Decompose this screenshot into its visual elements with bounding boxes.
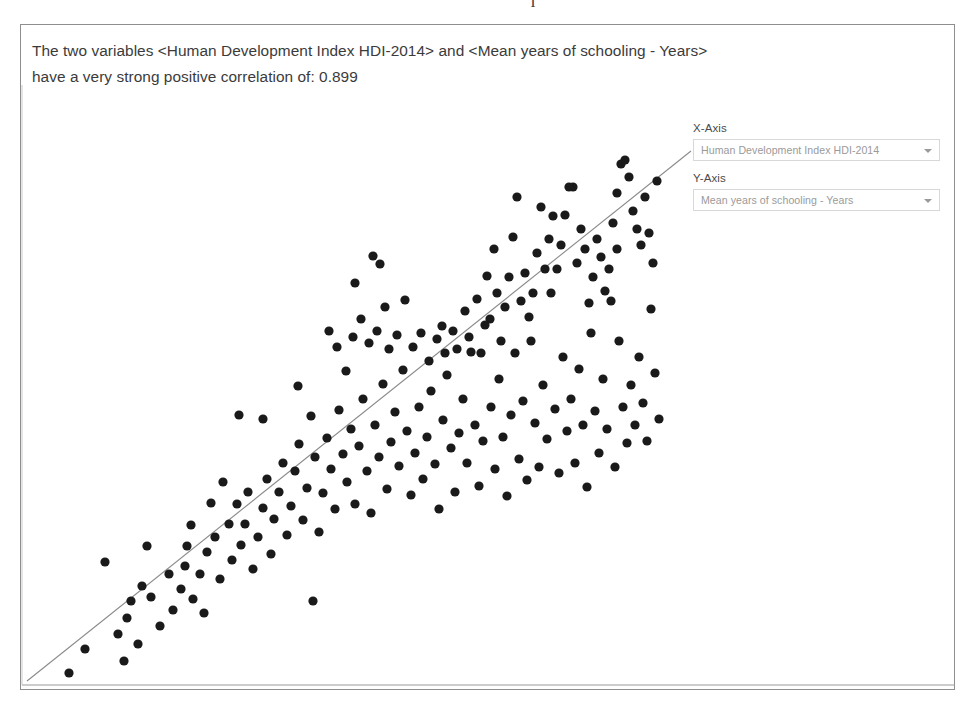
data-point: [358, 394, 367, 403]
data-point: [180, 561, 189, 570]
data-point: [290, 466, 299, 475]
data-point: [370, 420, 379, 429]
data-point: [384, 344, 393, 353]
data-point: [478, 436, 487, 445]
data-point: [472, 294, 481, 303]
x-axis-select[interactable]: Human Development Index HDI-2014: [693, 139, 940, 161]
data-point: [380, 302, 389, 311]
data-point: [410, 448, 419, 457]
data-point: [638, 398, 647, 407]
data-point: [510, 348, 519, 357]
data-point: [482, 271, 491, 280]
data-point: [366, 508, 375, 517]
data-point: [556, 240, 565, 249]
data-point: [199, 608, 208, 617]
data-point: [458, 394, 467, 403]
data-point: [438, 415, 447, 424]
data-point: [266, 549, 275, 558]
data-point: [364, 338, 373, 347]
data-point: [524, 312, 533, 321]
data-point: [274, 487, 283, 496]
data-point: [348, 332, 357, 341]
data-point: [234, 410, 243, 419]
data-point: [286, 501, 295, 510]
data-point: [640, 192, 649, 201]
data-point: [502, 491, 511, 500]
data-point: [332, 342, 341, 351]
data-point: [489, 244, 498, 253]
data-point: [346, 424, 355, 433]
data-point: [100, 557, 109, 566]
data-point: [538, 380, 547, 389]
data-point: [240, 519, 249, 528]
data-point: [628, 206, 637, 215]
data-point: [626, 380, 635, 389]
data-point: [532, 248, 541, 257]
data-point: [294, 439, 303, 448]
data-point: [310, 452, 319, 461]
data-point: [378, 379, 387, 388]
chevron-down-icon[interactable]: [924, 199, 932, 203]
data-point: [424, 356, 433, 365]
y-axis-selected-value: Mean years of schooling - Years: [701, 190, 915, 210]
data-point: [542, 434, 551, 443]
data-point: [608, 218, 617, 227]
data-point: [508, 232, 517, 241]
data-point: [236, 540, 245, 549]
data-point: [498, 432, 507, 441]
data-point: [430, 459, 439, 468]
data-point: [576, 224, 585, 233]
data-point: [356, 314, 365, 323]
data-point: [480, 320, 489, 329]
data-point: [454, 428, 463, 437]
data-point: [490, 464, 499, 473]
data-point: [504, 272, 513, 281]
x-axis-control-group: X-Axis Human Development Index HDI-2014: [693, 121, 943, 161]
data-point: [318, 488, 327, 497]
data-point: [262, 474, 271, 483]
data-point: [518, 396, 527, 405]
data-point: [460, 306, 469, 315]
data-point: [572, 258, 581, 267]
data-point: [562, 426, 571, 435]
data-point: [282, 530, 291, 539]
data-point: [306, 411, 315, 420]
data-point: [506, 410, 515, 419]
data-point: [202, 547, 211, 556]
data-point: [400, 295, 409, 304]
data-point: [113, 629, 122, 638]
data-point: [326, 464, 335, 473]
data-point: [558, 352, 567, 361]
data-point: [416, 328, 425, 337]
data-point: [168, 605, 177, 614]
data-point: [592, 234, 601, 243]
data-point: [394, 461, 403, 470]
data-point: [119, 656, 128, 665]
data-point: [466, 347, 475, 356]
data-point: [195, 569, 204, 578]
scan-artifact-glyph: I: [528, 0, 538, 8]
data-point: [137, 581, 146, 590]
data-point: [432, 334, 441, 343]
data-point: [218, 477, 227, 486]
data-point: [534, 462, 543, 471]
data-point: [426, 386, 435, 395]
data-point: [448, 326, 457, 335]
data-point: [330, 504, 339, 513]
y-axis-select[interactable]: Mean years of schooling - Years: [693, 189, 940, 211]
correlation-panel: The two variables <Human Development Ind…: [20, 24, 955, 690]
data-point: [390, 407, 399, 416]
data-point: [210, 532, 219, 541]
data-point: [350, 499, 359, 508]
data-point: [80, 644, 89, 653]
data-point: [588, 272, 597, 281]
data-point: [354, 441, 363, 450]
data-point: [494, 374, 503, 383]
data-point: [528, 288, 537, 297]
data-point: [258, 503, 267, 512]
data-point: [293, 381, 302, 390]
chevron-down-icon[interactable]: [924, 149, 932, 153]
data-point: [644, 228, 653, 237]
data-point: [278, 458, 287, 467]
data-point: [560, 210, 569, 219]
